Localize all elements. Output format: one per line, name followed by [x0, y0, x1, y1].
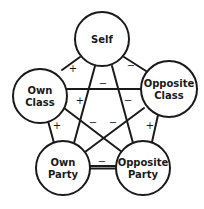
node-opposite-class: OppositeClass	[141, 61, 197, 117]
minus-sign-label: −	[124, 95, 132, 106]
node-label: Self	[91, 34, 113, 45]
class-party-relationship-diagram: +−−+−++−−− SelfOwnClassOppositeClassOwnP…	[0, 0, 204, 209]
node-label: Opposite	[144, 78, 195, 89]
node-label: Opposite	[118, 157, 169, 168]
plus-sign-label: +	[146, 120, 154, 131]
node-circle	[141, 61, 197, 117]
node-label: Party	[128, 169, 159, 180]
minus-sign-label: −	[99, 78, 107, 89]
node-own-party: OwnParty	[36, 141, 90, 195]
plus-sign-label: +	[76, 95, 84, 106]
node-label: Own	[51, 157, 76, 168]
node-self: Self	[75, 12, 129, 66]
node-label: Own	[28, 85, 53, 96]
plus-sign-label: +	[53, 120, 61, 131]
node-circle	[116, 141, 170, 195]
minus-sign-label: −	[127, 60, 135, 71]
node-label: Party	[48, 169, 79, 180]
plus-sign-label: +	[69, 63, 77, 74]
node-opposite-party: OppositeParty	[116, 141, 170, 195]
node-circle	[13, 69, 67, 123]
node-label: Class	[25, 97, 54, 108]
minus-sign-label: −	[98, 156, 106, 167]
node-own-class: OwnClass	[13, 69, 67, 123]
minus-sign-label: −	[109, 117, 117, 128]
minus-sign-label: −	[89, 117, 97, 128]
node-circle	[36, 141, 90, 195]
node-label: Class	[154, 90, 183, 101]
